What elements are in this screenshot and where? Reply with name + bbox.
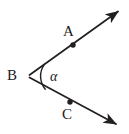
angle-diagram: A B C α [0, 0, 129, 134]
point-label-A: A [63, 24, 74, 39]
angle-label-alpha: α [50, 70, 57, 84]
point-label-C: C [62, 107, 72, 122]
point-dot-C [67, 99, 72, 104]
point-dot-A [70, 42, 75, 47]
point-label-B: B [7, 68, 17, 83]
